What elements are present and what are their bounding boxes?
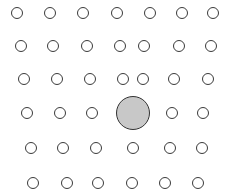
- small-circle: [176, 7, 188, 19]
- small-circle: [81, 40, 93, 52]
- small-circle: [197, 107, 209, 119]
- small-circle: [127, 142, 139, 154]
- small-circle: [61, 177, 73, 189]
- small-circle: [159, 177, 171, 189]
- small-circle: [11, 7, 23, 19]
- small-circle: [126, 177, 138, 189]
- small-circle: [111, 7, 123, 19]
- small-circle: [137, 73, 149, 85]
- small-circle: [207, 7, 219, 19]
- small-circle: [57, 142, 69, 154]
- small-circle: [18, 73, 30, 85]
- small-circle: [47, 40, 59, 52]
- small-circle: [51, 73, 63, 85]
- small-circle: [84, 73, 96, 85]
- small-circle: [168, 73, 180, 85]
- small-circle: [54, 107, 66, 119]
- small-circle: [86, 107, 98, 119]
- small-circle: [15, 40, 27, 52]
- small-circle: [138, 40, 150, 52]
- small-circle: [90, 142, 102, 154]
- small-circle: [192, 177, 204, 189]
- small-circle: [173, 40, 185, 52]
- small-circle: [44, 7, 56, 19]
- small-circle: [21, 107, 33, 119]
- small-circle: [166, 107, 178, 119]
- large-gray-circle: [116, 96, 150, 130]
- small-circle: [92, 177, 104, 189]
- small-circle: [205, 40, 217, 52]
- small-circle: [25, 142, 37, 154]
- small-circle: [196, 142, 208, 154]
- small-circle: [27, 177, 39, 189]
- small-circle: [77, 7, 89, 19]
- small-circle: [202, 73, 214, 85]
- circle-grid-diagram: [0, 0, 230, 196]
- small-circle: [164, 142, 176, 154]
- small-circle: [117, 73, 129, 85]
- small-circle: [144, 7, 156, 19]
- small-circle: [114, 40, 126, 52]
